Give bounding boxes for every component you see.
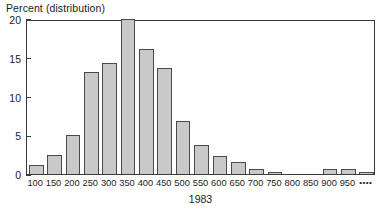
x-tick-label: 950 bbox=[338, 177, 356, 189]
bar bbox=[139, 49, 154, 174]
x-tick-label: 650 bbox=[228, 177, 246, 189]
x-tick-label: 200 bbox=[63, 177, 81, 189]
y-tick-mark bbox=[26, 97, 31, 98]
x-axis-title: 1983 bbox=[26, 193, 375, 205]
x-tick-label: 150 bbox=[44, 177, 62, 189]
y-tick-label: 0 bbox=[0, 168, 21, 182]
x-tick-label: 300 bbox=[99, 177, 117, 189]
bar bbox=[359, 172, 374, 174]
x-tick-label: 100 bbox=[26, 177, 44, 189]
bar bbox=[29, 165, 44, 174]
x-tick-label: 750 bbox=[265, 177, 283, 189]
bar bbox=[66, 135, 81, 174]
y-tick-label: 20 bbox=[0, 13, 21, 27]
y-tick-mark bbox=[26, 136, 31, 137]
x-tick-label: 600 bbox=[210, 177, 228, 189]
plot-frame bbox=[26, 20, 375, 175]
bar bbox=[213, 156, 228, 174]
x-tick-label: 850 bbox=[302, 177, 320, 189]
bar bbox=[249, 169, 264, 174]
bar bbox=[323, 169, 338, 174]
y-tick-mark bbox=[26, 58, 31, 59]
bar bbox=[47, 155, 62, 174]
bar bbox=[84, 72, 99, 174]
x-tick-label: 800 bbox=[283, 177, 301, 189]
x-tick-label: 900 bbox=[320, 177, 338, 189]
histogram-figure: Percent (distribution) 05101520 10015020… bbox=[0, 0, 383, 214]
y-tick-label: 10 bbox=[0, 91, 21, 105]
x-tick-label: 250 bbox=[81, 177, 99, 189]
y-tick-mark bbox=[26, 174, 31, 175]
bar bbox=[157, 68, 172, 174]
bar bbox=[121, 19, 136, 174]
y-tick-mark bbox=[26, 19, 31, 20]
x-tick-label: 400 bbox=[136, 177, 154, 189]
y-tick-label: 15 bbox=[0, 52, 21, 66]
bar bbox=[176, 121, 191, 174]
x-tick-label: 350 bbox=[118, 177, 136, 189]
x-tick-label: •••• bbox=[357, 177, 375, 189]
bar bbox=[194, 145, 209, 174]
y-tick-label: 5 bbox=[0, 129, 21, 143]
x-axis-tick-labels: 1001502002503003504004505005506006507007… bbox=[26, 177, 375, 191]
x-tick-label: 500 bbox=[173, 177, 191, 189]
x-tick-label: 450 bbox=[155, 177, 173, 189]
bar bbox=[341, 169, 356, 174]
bar bbox=[268, 172, 283, 174]
plot-area bbox=[27, 21, 374, 174]
x-tick-label: 700 bbox=[246, 177, 264, 189]
bar bbox=[102, 63, 117, 174]
x-tick-label: 550 bbox=[191, 177, 209, 189]
bar bbox=[231, 162, 246, 174]
